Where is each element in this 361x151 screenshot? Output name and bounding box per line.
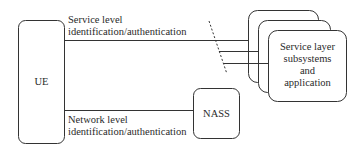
service-layer-label-line1: Service layer xyxy=(268,41,347,53)
service-level-label-line1: Service level xyxy=(68,14,123,26)
service-layer-label-line3: and xyxy=(268,65,347,77)
service-level-label-line2: identification/authentication xyxy=(68,26,186,38)
service-layer-label-line4: application xyxy=(268,77,347,89)
network-level-label-line1: Network level xyxy=(68,114,128,126)
network-level-label-line2: identification/authentication xyxy=(68,126,186,138)
dashed-separator xyxy=(209,21,227,74)
service-layer-label-line2: subsystems xyxy=(268,53,347,65)
nass-label: NASS xyxy=(193,108,240,120)
ue-label: UE xyxy=(18,76,65,88)
